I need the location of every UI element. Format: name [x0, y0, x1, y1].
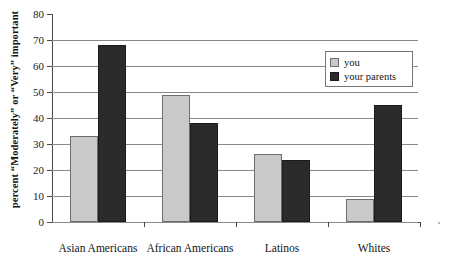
y-tick-label: 40: [33, 112, 44, 124]
legend-label-you: you: [344, 57, 360, 68]
legend-swatch-your-parents-icon: [330, 72, 339, 81]
bar-chart-figure: percent “Moderately” or “Very” important…: [0, 0, 450, 270]
x-tick-mark: [236, 222, 237, 227]
y-tick-label: 0: [39, 216, 45, 228]
artifact-speck: [438, 222, 440, 224]
y-tick-label: 20: [33, 164, 44, 176]
x-tick-mark: [420, 222, 421, 227]
x-category-label: Latinos: [265, 242, 300, 254]
x-tick-mark: [144, 222, 145, 227]
legend-label-your-parents: your parents: [344, 71, 396, 82]
y-tick-mark: [47, 196, 52, 197]
y-tick-mark: [47, 144, 52, 145]
bar-you-african-americans: [162, 95, 190, 222]
x-category-label: African Americans: [146, 242, 233, 254]
bar-you-asian-americans: [70, 136, 98, 222]
bar-your-parents-asian-americans: [98, 45, 126, 222]
gridline: [52, 222, 418, 223]
y-axis-title: percent “Moderately” or “Very” important: [9, 0, 20, 220]
plot-area: 01020304050607080 Asian AmericansAfrican…: [52, 14, 420, 222]
y-tick-label: 80: [33, 8, 44, 20]
y-tick-label: 30: [33, 138, 44, 150]
bar-your-parents-latinos: [282, 160, 310, 222]
legend-item-your-parents: your parents: [330, 69, 407, 83]
legend: you your parents: [325, 51, 413, 87]
y-tick-mark: [47, 66, 52, 67]
x-tick-mark: [328, 222, 329, 227]
legend-item-you: you: [330, 55, 407, 69]
y-tick-mark: [47, 14, 52, 15]
y-tick-label: 10: [33, 190, 44, 202]
bar-your-parents-african-americans: [190, 123, 218, 222]
legend-swatch-you-icon: [330, 58, 339, 67]
bar-you-latinos: [254, 154, 282, 222]
y-tick-mark: [47, 92, 52, 93]
y-tick-mark: [47, 118, 52, 119]
x-category-label: Asian Americans: [59, 242, 138, 254]
bar-your-parents-whites: [374, 105, 402, 222]
y-tick-mark: [47, 40, 52, 41]
x-category-label: Whites: [358, 242, 391, 254]
gridline: [52, 40, 418, 41]
bar-you-whites: [346, 199, 374, 222]
y-tick-label: 60: [33, 60, 44, 72]
y-tick-mark: [47, 222, 52, 223]
y-tick-label: 70: [33, 34, 44, 46]
y-tick-mark: [47, 170, 52, 171]
y-tick-label: 50: [33, 86, 44, 98]
